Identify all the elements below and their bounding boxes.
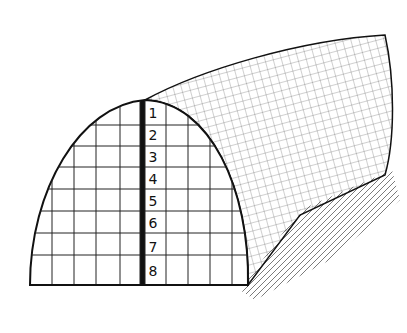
row-label: 1 [146, 106, 160, 120]
row-label: 6 [146, 216, 160, 230]
row-label: 3 [146, 150, 160, 164]
tunnel-sketch [0, 0, 407, 333]
row-label: 4 [146, 172, 160, 186]
tunnel-drawing: 1 2 3 4 5 6 7 8 [0, 0, 407, 333]
row-label: 7 [146, 240, 160, 254]
row-label: 5 [146, 194, 160, 208]
row-label: 8 [146, 264, 160, 278]
row-label: 2 [146, 128, 160, 142]
